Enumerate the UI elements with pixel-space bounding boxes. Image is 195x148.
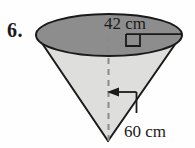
- problem-number-label: 6.: [7, 20, 23, 40]
- slant-height-label: 60 cm: [124, 123, 166, 140]
- diameter-label: 42 cm: [104, 15, 146, 32]
- geometry-figure: 6. 42 cm 60 cm: [0, 0, 195, 148]
